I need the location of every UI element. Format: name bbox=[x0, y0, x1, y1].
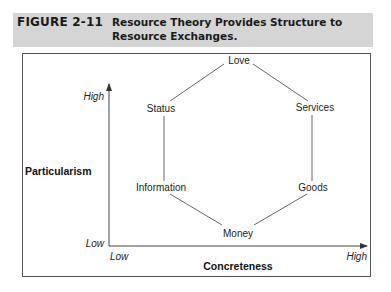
node-goods: Goods bbox=[298, 182, 327, 193]
y-axis-low-label: Low bbox=[86, 238, 105, 249]
resource-theory-diagram: Love Services Goods Money Information St… bbox=[0, 0, 391, 292]
x-axis-high-label: High bbox=[346, 251, 367, 262]
x-axis-title: Concreteness bbox=[203, 260, 273, 272]
node-information: Information bbox=[136, 182, 186, 193]
node-money: Money bbox=[223, 228, 253, 239]
y-axis-high-label: High bbox=[83, 91, 104, 102]
y-axis-title: Particularism bbox=[25, 165, 92, 177]
node-love: Love bbox=[228, 55, 250, 66]
edge-money-information bbox=[170, 194, 222, 225]
node-status: Status bbox=[147, 103, 175, 114]
edge-goods-money bbox=[254, 194, 307, 225]
edge-love-services bbox=[253, 64, 308, 101]
edge-status-love bbox=[170, 64, 224, 101]
x-axis-low-label: Low bbox=[110, 251, 129, 262]
node-services: Services bbox=[296, 102, 334, 113]
